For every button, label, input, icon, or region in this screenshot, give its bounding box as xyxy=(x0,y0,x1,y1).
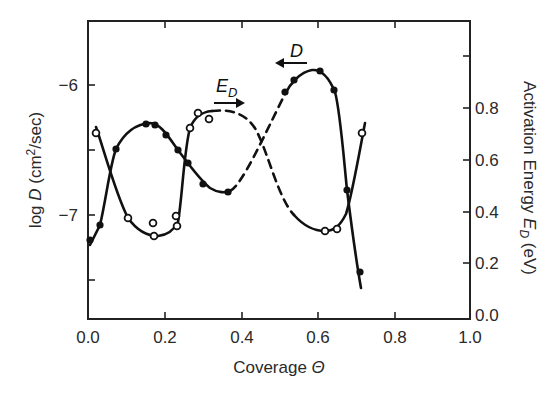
right-arrowhead-icon xyxy=(236,98,245,108)
chart-canvas: 0.0 0.2 0.4 0.6 0.8 1.0 −6 −7 0.0 0.2 0.… xyxy=(0,0,554,397)
series-d-markers xyxy=(86,67,363,275)
right-y-tick-label: 0.2 xyxy=(475,254,499,273)
x-tick-label: 1.0 xyxy=(458,328,482,347)
left-arrowhead-icon xyxy=(275,58,284,68)
x-axis-title: Coverage Θ xyxy=(233,358,325,377)
left-y-tick-label: −6 xyxy=(59,76,78,95)
series-ed xyxy=(96,110,365,236)
right-y-axis-ticks xyxy=(463,56,470,263)
x-tick-label: 0.0 xyxy=(76,328,100,347)
x-tick-label: 0.4 xyxy=(230,328,254,347)
right-y-tick-label: 0.6 xyxy=(475,151,499,170)
right-y-tick-label: 0.0 xyxy=(475,306,499,325)
left-y-axis-ticks xyxy=(88,85,95,280)
left-y-tick-labels: −6 −7 xyxy=(59,76,78,225)
x-tick-label: 0.8 xyxy=(383,328,407,347)
left-y-tick-label: −7 xyxy=(59,206,78,225)
right-y-axis-title: Activation Energy ED (eV) xyxy=(517,81,539,275)
series-ed-dashed xyxy=(212,110,294,215)
series-ed-solid-right xyxy=(294,123,365,231)
right-y-tick-label: 0.8 xyxy=(475,99,499,118)
right-y-tick-labels: 0.0 0.2 0.4 0.6 0.8 xyxy=(475,99,499,325)
annotation-d: D xyxy=(275,41,307,68)
right-y-tick-label: 0.4 xyxy=(475,203,499,222)
left-y-axis-title: log D (cm2/sec) xyxy=(24,112,45,228)
x-tick-labels: 0.0 0.2 0.4 0.6 0.8 1.0 xyxy=(76,328,482,347)
series-d-solid-right xyxy=(285,70,361,288)
annotation-ed-label: ED xyxy=(216,76,237,100)
plot-frame xyxy=(88,21,470,319)
x-tick-label: 0.2 xyxy=(153,328,177,347)
annotation-d-label: D xyxy=(290,41,303,61)
series-d-solid-left xyxy=(90,123,230,245)
series-d-dashed xyxy=(230,94,285,191)
annotation-ed: ED xyxy=(214,76,245,108)
x-tick-label: 0.6 xyxy=(306,328,330,347)
